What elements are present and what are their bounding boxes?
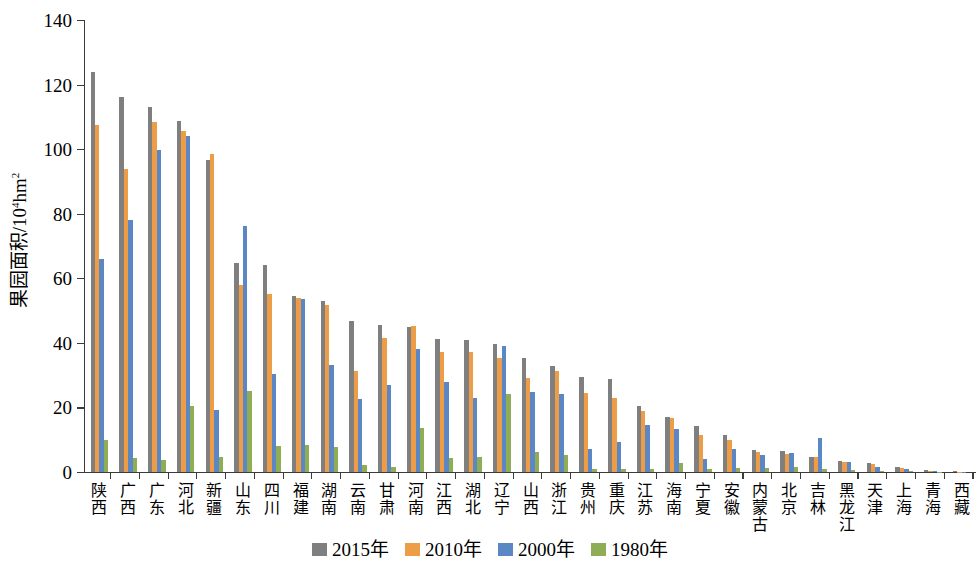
bar (818, 438, 822, 472)
x-axis-category-label: 海南 (665, 482, 683, 516)
y-axis-tick-mark (77, 20, 84, 21)
y-axis-tick-mark (77, 407, 84, 408)
x-axis-category-label: 福建 (292, 482, 310, 516)
bar (276, 446, 280, 472)
x-axis-category-label: 贵州 (579, 482, 597, 516)
bar (506, 394, 510, 472)
bar (387, 385, 391, 472)
bar (645, 425, 649, 472)
legend-swatch-icon (405, 543, 420, 556)
x-axis-category-label: 西藏 (953, 482, 971, 516)
bar-group (119, 20, 137, 472)
x-axis-tick-mark (685, 473, 686, 479)
x-axis-tick-mark (829, 473, 830, 479)
x-axis-category-label: 辽宁 (493, 482, 511, 516)
bar (161, 460, 165, 472)
y-axis-tick-label: 100 (44, 140, 73, 159)
x-axis-category-label: 广东 (148, 482, 166, 516)
bar (420, 428, 424, 472)
legend-item[interactable]: 2010年 (405, 540, 482, 559)
x-axis-category-label: 黑龙江 (838, 482, 856, 533)
x-axis-category-label: 广西 (119, 482, 137, 516)
bar (219, 457, 223, 472)
x-axis-category-label: 吉林 (809, 482, 827, 516)
bar-group (723, 20, 741, 472)
bar (305, 445, 309, 472)
x-axis-tick-mark (283, 473, 284, 479)
x-axis-line (84, 472, 976, 473)
bar (391, 467, 395, 472)
x-axis-tick-mark (369, 473, 370, 479)
y-axis-tick-mark (77, 278, 84, 279)
bar-group (206, 20, 224, 472)
y-axis-tick-label: 40 (53, 333, 72, 352)
bar-group (665, 20, 683, 472)
y-axis-tick-mark (77, 149, 84, 150)
legend-item[interactable]: 1980年 (591, 540, 668, 559)
y-axis-title-unit-exponent: 2 (9, 172, 21, 178)
bar-group (292, 20, 310, 472)
x-axis-tick-mark (714, 473, 715, 479)
x-axis-category-label: 湖北 (464, 482, 482, 516)
legend-label: 1980年 (611, 540, 668, 559)
bar-group (464, 20, 482, 472)
chart-legend: 2015年2010年2000年1980年 (0, 540, 980, 559)
x-axis-tick-mark (628, 473, 629, 479)
bar-group (838, 20, 856, 472)
x-axis-tick-mark (225, 473, 226, 479)
plot-area: 020406080100120140 (36, 12, 980, 480)
bar (909, 471, 913, 472)
bar-group (148, 20, 166, 472)
x-axis-category-label: 安徽 (723, 482, 741, 516)
bar (617, 442, 621, 472)
legend-swatch-icon (312, 543, 327, 556)
x-axis-tick-mark (800, 473, 801, 479)
x-axis-category-label: 天津 (866, 482, 884, 516)
bar-group (895, 20, 913, 472)
bar (362, 465, 366, 472)
x-axis-tick-mark (254, 473, 255, 479)
x-axis-tick-mark (742, 473, 743, 479)
bar (564, 455, 568, 472)
bar (621, 469, 625, 472)
x-axis-category-label: 重庆 (608, 482, 626, 516)
bar-group (493, 20, 511, 472)
x-axis-category-label: 四川 (263, 482, 281, 516)
legend-item[interactable]: 2000年 (498, 540, 575, 559)
legend-item[interactable]: 2015年 (312, 540, 389, 559)
bar (592, 469, 596, 472)
x-axis-tick-mark (857, 473, 858, 479)
legend-swatch-icon (591, 543, 606, 556)
bar-group (550, 20, 568, 472)
bar (650, 469, 654, 472)
y-axis-tick-mark (77, 214, 84, 215)
legend-label: 2010年 (425, 540, 482, 559)
bar-group (407, 20, 425, 472)
bar (679, 463, 683, 472)
legend-swatch-icon (498, 543, 513, 556)
bar (851, 470, 855, 472)
x-axis-tick-mark (426, 473, 427, 479)
x-axis-category-label: 山西 (522, 482, 540, 516)
bar (707, 469, 711, 472)
bar-group (91, 20, 109, 472)
x-axis-tick-mark (139, 473, 140, 479)
bar-group (752, 20, 770, 472)
bar-group (263, 20, 281, 472)
y-axis-title-main: 果园面积/10 (10, 208, 31, 308)
bar (477, 457, 481, 472)
bar-group (522, 20, 540, 472)
bar-group (780, 20, 798, 472)
x-axis-tick-mark (398, 473, 399, 479)
x-axis-category-label: 河北 (177, 482, 195, 516)
y-axis-tick-mark (77, 85, 84, 86)
x-axis-category-label: 甘肃 (378, 482, 396, 516)
y-axis-tick-label: 20 (53, 398, 72, 417)
x-axis-tick-mark (513, 473, 514, 479)
x-axis-category-label: 宁夏 (694, 482, 712, 516)
y-axis-title: 果园面积/104hm2 (0, 0, 36, 480)
bars-container (85, 20, 976, 472)
y-axis-tick-mark (77, 472, 84, 473)
x-axis-category-label: 青海 (924, 482, 942, 516)
x-axis-category-label: 新疆 (205, 482, 223, 516)
